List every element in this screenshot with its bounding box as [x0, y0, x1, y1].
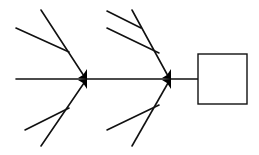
joint-2-arrowhead-bottom-icon	[162, 79, 171, 89]
bone-1-bottom-main	[41, 83, 84, 146]
bone-2-bottom-branch	[107, 105, 159, 130]
bone-2-top-branch-b	[107, 28, 159, 53]
fishbone-diagram	[0, 0, 259, 155]
bone-2-top-branch-a	[107, 11, 141, 28]
effect-box	[198, 54, 247, 104]
bone-1-bottom-branch	[25, 108, 69, 130]
bones-group	[16, 10, 168, 146]
